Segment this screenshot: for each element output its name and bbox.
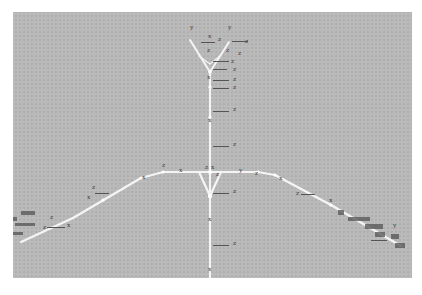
axis-label-x: x [329, 197, 332, 203]
axis-label-z: z [207, 47, 210, 53]
axis-label-z: z [255, 170, 258, 176]
axis-label-y: y [228, 24, 231, 30]
axis-label-x: x [279, 175, 282, 181]
axis-line [213, 88, 229, 89]
axis-label-x: x [67, 222, 70, 228]
axis-label-y: y [393, 222, 396, 228]
axis-label-z: z [233, 76, 236, 82]
skeleton-bones [13, 12, 412, 278]
axis-label-z: z [233, 141, 236, 147]
axis-label-x: x [207, 74, 210, 80]
axis-label-y: y [239, 167, 242, 173]
axis-line [213, 245, 229, 246]
joint-label-cluster [338, 210, 344, 215]
axis-label-z: z [233, 84, 236, 90]
axis-label-z: z [92, 184, 95, 190]
axis-line [213, 61, 229, 62]
axis-label-z: z [231, 58, 234, 64]
axis-label-z: z [296, 190, 299, 196]
joint-label-cluster [21, 211, 35, 215]
joint-label-cluster [395, 243, 405, 248]
axis-label-z: z [216, 171, 219, 177]
axis-label-x: x [208, 117, 211, 123]
joint-label-cluster [13, 232, 23, 235]
axis-label-z: z [50, 214, 53, 220]
axis-line [371, 240, 387, 241]
axis-label-x: x [179, 167, 182, 173]
axis-label-z: z [43, 224, 46, 230]
axis-line [213, 69, 227, 70]
axis-line [213, 146, 229, 147]
axis-label-y: y [190, 24, 193, 30]
axis-label-x: x [142, 174, 145, 180]
axis-line [95, 193, 109, 194]
joint-label-cluster [13, 217, 17, 221]
axis-line [232, 41, 248, 42]
3d-viewport[interactable]: y y x z z z z z z z x z z z x z z x z y … [13, 12, 412, 278]
axis-label-x: x [211, 164, 214, 170]
axis-label-z: z [233, 106, 236, 112]
joint-label-cluster [365, 224, 383, 229]
axis-label-z: z [233, 66, 236, 72]
axis-line [47, 227, 65, 228]
axis-line [301, 194, 315, 195]
axis-label-z: z [233, 188, 236, 194]
axis-line [201, 42, 215, 43]
axis-line [213, 193, 229, 194]
axis-label-z: z [233, 240, 236, 246]
axis-label-z: z [205, 164, 208, 170]
axis-label-x: x [208, 266, 211, 272]
axis-label-z: z [238, 50, 241, 56]
axis-label-x: x [208, 33, 211, 39]
joint-label-cluster [348, 217, 370, 221]
axis-line [213, 111, 229, 112]
axis-label-x: x [208, 216, 211, 222]
axis-label-z: z [162, 162, 165, 168]
axis-label-x: x [87, 194, 90, 200]
axis-label-z: z [218, 36, 221, 42]
axis-label-z: z [226, 47, 229, 53]
axis-line [213, 80, 229, 81]
joint-label-cluster [375, 232, 385, 237]
joint-label-cluster [391, 234, 399, 239]
joint-label-cluster [15, 223, 35, 226]
